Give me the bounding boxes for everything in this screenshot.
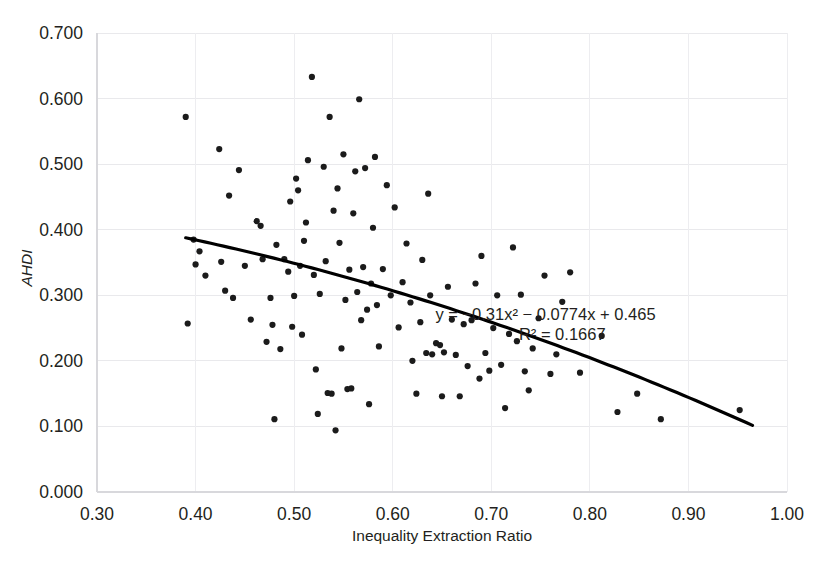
annotations-layer: y = −0.31x² − 0.0774x + 0.465R² = 0.1667 [435,305,655,343]
data-point [465,363,471,369]
data-point [263,339,269,345]
data-point [502,405,508,411]
data-point [374,302,380,308]
data-point [192,261,198,267]
data-point [242,263,248,269]
data-point [267,295,273,301]
data-point [366,401,372,407]
data-point [338,345,344,351]
data-point [317,291,323,297]
x-tick-label: 0.90 [671,504,705,524]
data-point [289,324,295,330]
gridlines-vertical [196,33,787,492]
data-point [216,146,222,152]
gridlines-horizontal [97,33,787,426]
data-point [185,320,191,326]
data-point [409,358,415,364]
data-point [364,307,370,313]
data-point [441,349,447,355]
data-point [273,242,279,248]
data-point [567,269,573,275]
data-point [332,427,338,433]
y-tick-label: 0.000 [39,482,83,502]
data-point [362,165,368,171]
data-point [530,345,536,351]
data-point [196,248,202,254]
data-point [439,393,445,399]
data-point [340,151,346,157]
data-point [313,366,319,372]
data-point [342,297,348,303]
data-point [348,385,354,391]
data-point [403,240,409,246]
data-point [490,325,496,331]
data-point [226,193,232,199]
y-tick-label: 0.500 [39,154,83,174]
data-point [352,168,358,174]
data-point [445,284,451,290]
data-point [258,223,264,229]
chart-canvas: 0.0000.1000.2000.3000.4000.5000.6000.700… [0,0,826,563]
data-point [482,350,488,356]
data-point [559,299,565,305]
scatter-chart-figure: 0.0000.1000.2000.3000.4000.5000.6000.700… [0,0,826,563]
data-point [315,411,321,417]
data-point [392,204,398,210]
data-point [293,175,299,181]
data-point [327,114,333,120]
data-point [323,258,329,264]
data-point [577,370,583,376]
y-tick-label: 0.600 [39,89,83,109]
data-point [457,393,463,399]
data-point [486,368,492,374]
data-point [309,74,315,80]
y-tick-label: 0.400 [39,220,83,240]
x-tick-label: 0.50 [277,504,311,524]
data-point [230,295,236,301]
data-point [311,272,317,278]
data-point [222,288,228,294]
data-point [553,351,559,357]
data-point [478,253,484,259]
data-point [277,346,283,352]
data-point [350,210,356,216]
r-squared: R² = 0.1667 [519,325,606,343]
data-point [737,407,743,413]
data-point [476,375,482,381]
data-point [399,279,405,285]
trendline-path [186,238,753,426]
data-point [360,264,366,270]
data-point [541,273,547,279]
x-tick-label: 0.70 [474,504,508,524]
data-point [494,292,500,298]
trendline [186,238,753,426]
data-point [354,289,360,295]
data-point [634,391,640,397]
scatter-points [183,74,743,434]
data-point [658,416,664,422]
y-axis-title: AHDI [18,249,35,288]
data-point [287,198,293,204]
data-point [376,343,382,349]
data-point [330,208,336,214]
data-point [417,319,423,325]
data-point [384,182,390,188]
data-point [346,267,352,273]
data-point [547,371,553,377]
data-point [334,185,340,191]
data-point [380,266,386,272]
data-point [305,157,311,163]
data-point [218,259,224,265]
data-point [291,293,297,299]
data-point [269,322,275,328]
data-point [614,409,620,415]
data-point [202,273,208,279]
x-tick-label: 1.00 [770,504,804,524]
data-point [419,257,425,263]
data-point [423,350,429,356]
data-point [472,280,478,286]
data-point [407,299,413,305]
axis-lines [97,33,787,492]
data-point [303,219,309,225]
y-tick-label: 0.700 [39,23,83,43]
